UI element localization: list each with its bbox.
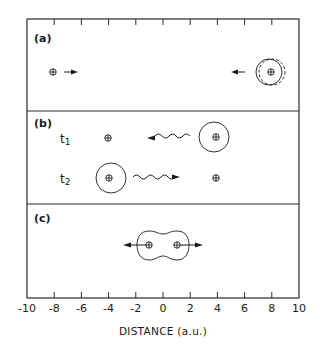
- x-tick-label: -2: [130, 302, 141, 315]
- panel-a-label: (a): [34, 32, 51, 45]
- x-tick-label: -6: [76, 302, 87, 315]
- x-tick-labels: -10-8-6-4-20246810: [18, 302, 306, 315]
- x-tick-label: 10: [292, 302, 306, 315]
- panel-b: [96, 122, 229, 193]
- bottom-ticks: [54, 292, 272, 298]
- panel-c: [123, 231, 203, 260]
- nucleus-icon: [174, 242, 180, 248]
- arrow-left-icon: [123, 243, 146, 248]
- time-label-t2: t2: [60, 172, 70, 187]
- wavy-arrow-left-icon: [147, 134, 190, 141]
- x-tick-label: -8: [49, 302, 60, 315]
- panel-c-label: (c): [34, 212, 51, 225]
- x-tick-label: 2: [187, 302, 194, 315]
- nucleus-icon: [268, 69, 274, 75]
- x-tick-label: 8: [268, 302, 275, 315]
- panel-a: [50, 59, 285, 85]
- x-tick-label: 4: [214, 302, 221, 315]
- time-label-t1: t1: [60, 132, 70, 147]
- nucleus-icon: [146, 242, 152, 248]
- arrow-right-icon: [180, 243, 203, 248]
- nucleus-icon: [106, 175, 112, 181]
- arrow-left-icon: [231, 70, 245, 75]
- nucleus-icon: [213, 175, 219, 181]
- panel-b-label: (b): [34, 117, 52, 130]
- x-tick-label: -4: [103, 302, 114, 315]
- x-tick-label: 0: [160, 302, 167, 315]
- x-tick-label: 6: [241, 302, 248, 315]
- x-tick-label: -10: [18, 302, 36, 315]
- figure-canvas: -10-8-6-4-20246810 DISTANCE (a.u.) (a) (…: [0, 0, 320, 355]
- arrow-right-icon: [64, 70, 78, 75]
- wavy-arrow-right-icon: [133, 175, 180, 180]
- nucleus-icon: [105, 135, 111, 141]
- top-ticks: [54, 19, 272, 25]
- nucleus-icon: [50, 69, 56, 75]
- x-axis-label: DISTANCE (a.u.): [119, 325, 207, 337]
- nucleus-icon: [213, 134, 219, 140]
